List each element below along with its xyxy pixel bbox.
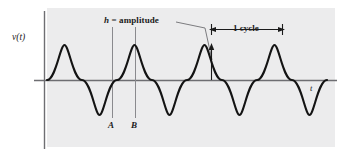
marker-label-a: A [108, 121, 114, 130]
amplitude-annotation: h = amplitude [104, 16, 159, 25]
y-axis-label: v(t) [12, 33, 25, 43]
cycle-annotation: 1 cycle [233, 24, 259, 33]
waveform-svg [0, 0, 346, 158]
waveform-figure: v(t) t h = amplitude 1 cycle A B [0, 0, 346, 158]
amplitude-word: amplitude [119, 15, 159, 25]
marker-label-b: B [131, 121, 137, 130]
amplitude-equals: = [109, 15, 119, 25]
amplitude-leader-line [176, 22, 212, 60]
t-axis-label: t [310, 84, 312, 93]
